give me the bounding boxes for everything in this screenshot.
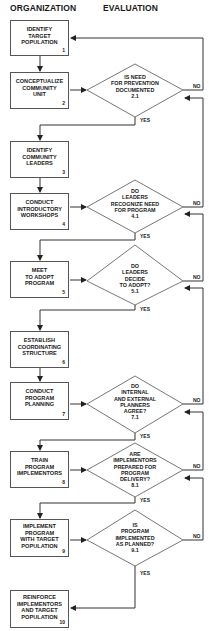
yes-label-5.1: YES [140,306,150,312]
step-number: 3 [62,169,65,175]
decision-label-4.1: DO LEADERS RECOGNIZE NEED FOR PROGRAM 4.… [95,188,175,219]
step-label: IDENTIFY TARGET POPULATION [11,26,68,46]
step-label: IMPLEMENT PROGRAM WITH TARGET POPULATION [11,523,68,549]
step-number: 6 [62,359,65,365]
step-box-4: CONDUCT INTRODUCTORY WORKSHOPS 4 [10,193,69,230]
step-label: TRAIN PROGRAM IMPLEMENTORS [11,457,68,477]
yes-label-7.1: YES [140,433,150,439]
no-label-9.1: NO [193,533,201,539]
step-box-9: IMPLEMENT PROGRAM WITH TARGET POPULATION… [10,519,69,557]
no-label-2.1: NO [193,83,201,89]
no-label-4.1: NO [193,200,201,206]
step-box-8: TRAIN PROGRAM IMPLEMENTORS 8 [10,451,69,488]
decision-label-7.1: DO INTERNAL AND EXTERNAL PLANNERS AGREE?… [95,383,175,421]
step-box-7: CONDUCT PROGRAM PLANNING 7 [10,382,69,420]
step-number: 1 [62,47,65,53]
step-number: 4 [62,221,65,227]
step-box-3: IDENTIFY COMMUNITY LEADERS 3 [10,141,69,178]
step-label: REINFORCE IMPLEMENTORS AND TARGET POPULA… [11,594,68,620]
no-label-8.1: NO [193,463,201,469]
step-label: ESTABLISH COORDINATING STRUCTURE [11,337,68,357]
step-number: 10 [59,619,65,625]
step-label: CONDUCT PROGRAM PLANNING [11,388,68,408]
yes-label-2.1: YES [140,117,150,123]
step-label: CONDUCT INTRODUCTORY WORKSHOPS [11,199,68,219]
step-number: 9 [62,548,65,554]
decision-label-9.1: IS PROGRAM IMPLEMENTED AS PLANNED? 9.1 [95,522,175,553]
step-box-6: ESTABLISH COORDINATING STRUCTURE 6 [10,331,69,368]
step-box-1: IDENTIFY TARGET POPULATION 1 [10,20,69,56]
decision-label-8.1: ARE IMPLEMENTORS PREPARED FOR PROGRAM DE… [95,451,175,489]
step-number: 8 [62,479,65,485]
step-number: 2 [62,100,65,106]
decision-label-5.1: DO LEADERS DECIDE TO ADOPT? 5.1 [95,263,175,294]
no-label-7.1: NO [193,397,201,403]
step-label: CONCEPTUALIZE COMMUNITY UNIT [11,78,68,98]
step-label: IDENTIFY COMMUNITY LEADERS [11,147,68,167]
step-label: MEET TO ADOPT PROGRAM [11,267,68,287]
decision-label-2.1: IS NEED FOR PREVENTION DOCUMENTED 2.1 [95,74,175,99]
no-label-5.1: NO [193,274,201,280]
step-box-5: MEET TO ADOPT PROGRAM 5 [10,261,69,298]
step-number: 7 [62,411,65,417]
yes-label-9.1: YES [140,570,150,576]
yes-label-8.1: YES [140,497,150,503]
yes-label-4.1: YES [140,233,150,239]
step-box-2: CONCEPTUALIZE COMMUNITY UNIT 2 [10,72,69,109]
step-number: 5 [62,289,65,295]
step-box-10: REINFORCE IMPLEMENTORS AND TARGET POPULA… [10,590,69,628]
